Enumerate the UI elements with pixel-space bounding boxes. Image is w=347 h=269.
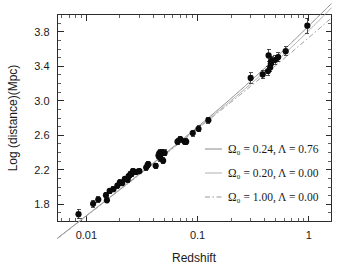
y-tick-label-4: 3.4: [34, 60, 49, 72]
legend-label-model-c: Ω₀ = 1.00, Λ = 0.00: [228, 191, 319, 204]
model-curve-model-b: [58, 8, 332, 239]
data-point: [183, 139, 189, 145]
data-point: [75, 211, 81, 217]
y-axis-title: Log (distance)(Mpc): [6, 65, 20, 172]
y-tick-label-1: 2.2: [34, 164, 49, 176]
data-point: [265, 52, 271, 58]
model-curve-model-c: [58, 18, 332, 238]
legend: Ω₀ = 0.24, Λ = 0.76 Ω₀ = 0.20, Λ = 0.00 …: [205, 143, 319, 204]
chart-canvas: 0.01 0.1 1 1.8 2.2 2.6 3.0 3.4 3.8 Redsh…: [0, 0, 347, 269]
model-curves-group: [58, 4, 332, 239]
data-point: [190, 130, 196, 136]
data-point: [195, 126, 201, 132]
data-point: [304, 23, 310, 29]
legend-label-model-b: Ω₀ = 0.20, Λ = 0.00: [228, 167, 319, 180]
y-tick-label-2: 2.6: [34, 129, 49, 141]
data-point: [136, 168, 142, 174]
y-tick-label-0: 1.8: [34, 198, 49, 210]
data-point: [248, 75, 254, 81]
x-axis-tick-labels: 0.01 0.1 1: [76, 229, 312, 241]
data-point: [95, 196, 101, 202]
y-axis-tick-labels: 1.8 2.2 2.6 3.0 3.4 3.8: [34, 26, 49, 211]
data-point: [145, 161, 151, 167]
data-point: [90, 201, 96, 207]
data-point: [283, 48, 289, 54]
x-tick-label-0: 0.01: [76, 229, 97, 241]
legend-label-model-a: Ω₀ = 0.24, Λ = 0.76: [228, 143, 319, 156]
x-tick-label-2: 1: [306, 229, 312, 241]
model-curve-model-a: [58, 4, 332, 239]
data-point: [260, 71, 266, 77]
data-point: [160, 158, 166, 164]
data-point: [153, 163, 159, 169]
hubble-diagram-figure: 0.01 0.1 1 1.8 2.2 2.6 3.0 3.4 3.8 Redsh…: [0, 0, 347, 269]
data-point: [205, 117, 211, 123]
x-axis-title: Redshift: [172, 251, 217, 265]
y-tick-label-5: 3.8: [34, 26, 49, 38]
data-point: [104, 197, 110, 203]
y-tick-label-3: 3.0: [34, 95, 49, 107]
data-point: [161, 150, 167, 156]
data-point: [275, 54, 281, 60]
data-points-group: [75, 23, 310, 218]
x-tick-label-1: 0.1: [190, 229, 205, 241]
